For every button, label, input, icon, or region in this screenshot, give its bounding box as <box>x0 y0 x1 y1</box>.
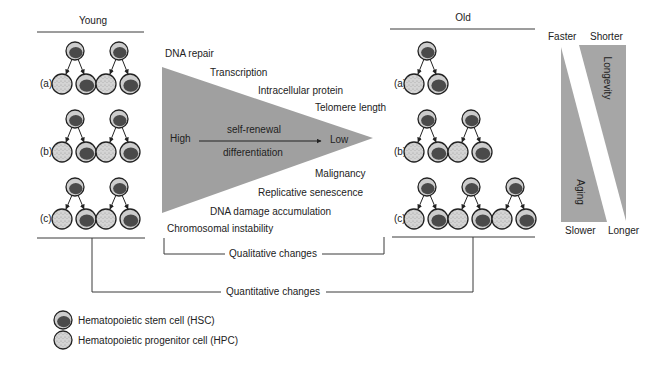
division-arrow-icon <box>430 127 436 142</box>
quantitative-bracket-left <box>92 238 221 292</box>
division-arrow-icon <box>518 195 524 209</box>
hsc-cell-icon <box>120 74 140 94</box>
label-aging: Aging <box>575 179 586 205</box>
cell-division <box>492 178 536 229</box>
capacity-triangle: DNA repair Transcription Intracellular p… <box>162 48 386 234</box>
hsc-cell-icon <box>66 178 84 196</box>
qualitative-bracket-right <box>322 237 384 254</box>
hsc-cell-icon <box>76 74 96 94</box>
qualitative-bracket: Qualitative changes <box>164 237 384 259</box>
cell-division <box>404 110 448 162</box>
cell-row: (b) <box>40 110 140 162</box>
cell-division <box>448 178 492 229</box>
hsc-cell-icon <box>120 209 140 229</box>
hsc-cell-icon <box>66 42 84 60</box>
cell-division <box>404 42 448 94</box>
aging-longevity-bar: Faster Shorter Longevity Aging Slower Lo… <box>548 31 640 236</box>
label-intracellular-protein: Intracellular protein <box>258 85 343 96</box>
legend-item-hpc <box>54 331 72 349</box>
label-high: High <box>170 133 191 144</box>
division-arrow-icon <box>66 127 72 142</box>
young-cell-rows: (a)(b)(c) <box>40 42 140 229</box>
cell-division <box>96 110 140 162</box>
row-label: (a) <box>40 78 52 89</box>
hpc-cell-icon <box>448 142 468 162</box>
division-arrow-icon <box>110 59 116 74</box>
hsc-cell-icon <box>428 74 448 94</box>
label-telomere-length: Telomere length <box>315 102 386 113</box>
hpc-cell-icon <box>404 142 424 162</box>
division-arrow-icon <box>418 59 424 74</box>
cell-division <box>448 110 492 162</box>
hsc-cell-icon <box>428 142 448 162</box>
hsc-cell-icon <box>418 42 436 60</box>
hsc-cell-icon <box>418 178 436 196</box>
division-arrow-icon <box>474 195 480 209</box>
division-arrow-icon <box>78 195 84 209</box>
hsc-cell-icon <box>506 178 524 196</box>
division-arrow-icon <box>110 195 116 209</box>
hpc-cell-icon <box>448 209 468 229</box>
hsc-cell-icon <box>418 110 436 128</box>
label-transcription: Transcription <box>210 67 267 78</box>
old-cell-rows: (a)(b)(c) <box>394 42 536 229</box>
cell-row: (a) <box>394 42 448 94</box>
cell-division <box>52 178 96 229</box>
hsc-cell-icon <box>110 178 128 196</box>
hpc-cell-icon <box>96 209 116 229</box>
cell-division <box>52 110 96 162</box>
division-arrow-icon <box>506 195 512 209</box>
cell-row: (a) <box>40 42 140 94</box>
division-arrow-icon <box>430 195 436 209</box>
cell-row: (c) <box>394 178 536 229</box>
hsc-cell-icon <box>472 209 492 229</box>
hpc-cell-icon <box>404 74 424 94</box>
label-self-renewal: self-renewal <box>227 124 281 135</box>
division-arrow-icon <box>66 195 72 209</box>
young-panel: Young (a)(b)(c) <box>37 15 145 238</box>
label-longevity: Longevity <box>602 57 613 100</box>
cell-row: (c) <box>40 178 140 229</box>
qualitative-changes-label: Qualitative changes <box>229 248 317 259</box>
label-low: Low <box>330 134 349 145</box>
division-arrow-icon <box>122 127 128 142</box>
label-faster: Faster <box>548 31 577 42</box>
division-arrow-icon <box>110 127 116 142</box>
hsc-cell-icon <box>54 311 72 329</box>
hematopoietic-aging-diagram: Young (a)(b)(c) Old (a)(b)(c) DNA repair… <box>0 0 672 368</box>
legend-item-hsc <box>54 311 72 329</box>
division-arrow-icon <box>418 127 424 142</box>
hsc-cell-icon <box>110 110 128 128</box>
cell-division <box>96 178 140 229</box>
quantitative-bracket-right <box>326 237 473 292</box>
row-label: (c) <box>40 213 52 224</box>
hpc-cell-icon <box>96 74 116 94</box>
label-longer: Longer <box>608 225 640 236</box>
division-arrow-icon <box>462 195 468 209</box>
qualitative-bracket-left <box>164 238 225 254</box>
division-arrow-icon <box>66 59 72 74</box>
legend-hsc-label: Hematopoietic stem cell (HSC) <box>78 315 215 326</box>
label-dna-damage-accumulation: DNA damage accumulation <box>210 206 331 217</box>
row-label: (b) <box>40 146 52 157</box>
quantitative-changes-label: Quantitative changes <box>226 286 320 297</box>
quantitative-bracket: Quantitative changes <box>92 237 473 297</box>
cell-division <box>96 42 140 94</box>
hsc-cell-icon <box>76 142 96 162</box>
label-differentiation: differentiation <box>223 147 283 158</box>
division-arrow-icon <box>418 195 424 209</box>
hpc-cell-icon <box>52 209 72 229</box>
label-slower: Slower <box>565 225 596 236</box>
hsc-cell-icon <box>428 209 448 229</box>
division-arrow-icon <box>462 127 468 142</box>
hsc-cell-icon <box>516 209 536 229</box>
division-arrow-icon <box>78 127 84 142</box>
hsc-cell-icon <box>110 42 128 60</box>
hpc-cell-icon <box>52 142 72 162</box>
label-chromosomal-instability: Chromosomal instability <box>167 223 273 234</box>
hsc-cell-icon <box>66 110 84 128</box>
hpc-cell-icon <box>54 331 72 349</box>
cell-division <box>52 42 96 94</box>
hsc-cell-icon <box>76 209 96 229</box>
hpc-cell-icon <box>52 74 72 94</box>
